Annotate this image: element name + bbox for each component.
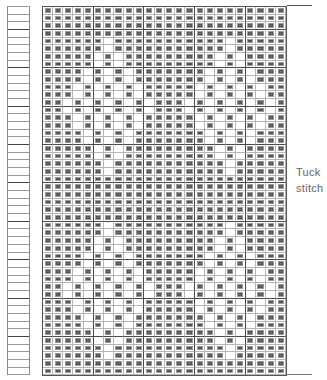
stitch-cell-tuck	[246, 322, 256, 330]
stitch-cell-knit	[276, 61, 286, 69]
stitch-cell-knit	[73, 329, 83, 337]
stitch-cell-knit	[144, 237, 154, 245]
stitch-cell-knit	[185, 84, 195, 92]
stitch-cell-knit	[165, 199, 175, 207]
row-counter-cell	[8, 6, 29, 14]
stitch-cell-knit	[43, 291, 53, 299]
stitch-cell-knit	[165, 153, 175, 161]
stitch-cell-knit	[104, 22, 114, 30]
stitch-cell-knit	[236, 38, 246, 46]
row-counter-cell	[8, 37, 29, 45]
stitch-cell-knit	[53, 53, 63, 61]
stitch-cell-knit	[155, 99, 165, 107]
stitch-cell-tuck	[114, 268, 124, 276]
stitch-cell-knit	[43, 276, 53, 284]
stitch-cell-knit	[84, 337, 94, 345]
stitch-cell-knit	[53, 7, 63, 15]
stitch-cell-knit	[236, 360, 246, 368]
stitch-cell-knit	[215, 345, 225, 353]
stitch-cell-knit	[114, 352, 124, 360]
stitch-cell-knit	[205, 329, 215, 337]
stitch-cell-knit	[155, 7, 165, 15]
stitch-cell-tuck	[205, 253, 215, 261]
stitch-cell-tuck	[94, 276, 104, 284]
stitch-cell-tuck	[114, 91, 124, 99]
stitch-cell-knit	[215, 160, 225, 168]
stitch-cell-knit	[165, 329, 175, 337]
stitch-cell-knit	[43, 206, 53, 214]
stitch-cell-tuck	[215, 329, 225, 337]
stitch-cell-knit	[256, 153, 266, 161]
stitch-cell-knit	[246, 160, 256, 168]
stitch-cell-knit	[63, 168, 73, 176]
stitch-cell-knit	[256, 191, 266, 199]
stitch-cell-knit	[165, 276, 175, 284]
stitch-cell-knit	[124, 245, 134, 253]
stitch-cell-knit	[104, 368, 114, 376]
stitch-cell-knit	[134, 183, 144, 191]
stitch-cell-knit	[124, 360, 134, 368]
stitch-cell-tuck	[114, 237, 124, 245]
stitch-cell-knit	[205, 229, 215, 237]
stitch-cell-knit	[256, 107, 266, 115]
stitch-cell-knit	[104, 299, 114, 307]
stitch-cell-knit	[256, 137, 266, 145]
stitch-cell-tuck	[114, 299, 124, 307]
stitch-cell-knit	[185, 199, 195, 207]
stitch-cell-knit	[205, 245, 215, 253]
stitch-cell-knit	[205, 7, 215, 15]
stitch-cell-knit	[266, 214, 276, 222]
stitch-cell-knit	[43, 30, 53, 38]
stitch-cell-knit	[114, 222, 124, 230]
row-counter-cell	[8, 52, 29, 60]
stitch-cell-knit	[226, 91, 236, 99]
stitch-cell-tuck	[215, 245, 225, 253]
stitch-cell-knit	[266, 299, 276, 307]
stitch-cell-tuck	[215, 337, 225, 345]
stitch-cell-knit	[73, 168, 83, 176]
stitch-cell-knit	[114, 345, 124, 353]
stitch-cell-tuck	[226, 283, 236, 291]
stitch-cell-knit	[114, 45, 124, 53]
stitch-cell-tuck	[84, 76, 94, 84]
stitch-cell-knit	[185, 360, 195, 368]
stitch-cell-tuck	[215, 84, 225, 92]
stitch-cell-knit	[266, 160, 276, 168]
stitch-cell-knit	[165, 160, 175, 168]
stitch-cell-knit	[104, 245, 114, 253]
stitch-cell-knit	[104, 91, 114, 99]
stitch-cell-tuck	[236, 337, 246, 345]
stitch-cell-knit	[53, 22, 63, 30]
stitch-cell-knit	[144, 22, 154, 30]
stitch-cell-knit	[53, 306, 63, 314]
stitch-cell-knit	[144, 360, 154, 368]
stitch-cell-knit	[266, 206, 276, 214]
stitch-cell-knit	[165, 214, 175, 222]
stitch-cell-knit	[144, 314, 154, 322]
stitch-cell-knit	[94, 168, 104, 176]
stitch-cell-knit	[134, 130, 144, 138]
stitch-cell-knit	[53, 291, 63, 299]
stitch-cell-knit	[205, 145, 215, 153]
stitch-cell-knit	[215, 76, 225, 84]
stitch-cell-knit	[84, 345, 94, 353]
stitch-cell-knit	[104, 191, 114, 199]
stitch-cell-knit	[155, 229, 165, 237]
stitch-cell-knit	[276, 191, 286, 199]
stitch-cell-knit	[185, 160, 195, 168]
stitch-cell-knit	[43, 322, 53, 330]
stitch-cell-knit	[155, 245, 165, 253]
stitch-cell-knit	[215, 107, 225, 115]
stitch-cell-knit	[155, 322, 165, 330]
stitch-cell-knit	[266, 91, 276, 99]
stitch-cell-knit	[144, 68, 154, 76]
stitch-cell-tuck	[246, 260, 256, 268]
stitch-cell-knit	[276, 84, 286, 92]
stitch-cell-knit	[246, 206, 256, 214]
stitch-cell-knit	[53, 168, 63, 176]
stitch-cell-knit	[84, 122, 94, 130]
stitch-cell-knit	[175, 61, 185, 69]
stitch-cell-knit	[104, 114, 114, 122]
stitch-cell-knit	[104, 329, 114, 337]
stitch-cell-knit	[175, 91, 185, 99]
